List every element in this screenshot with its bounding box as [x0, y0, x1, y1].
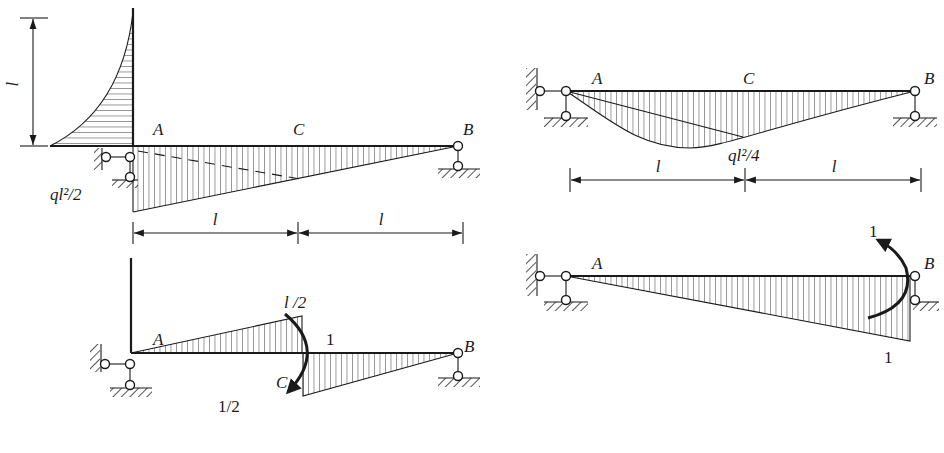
span2-label: l [832, 157, 837, 176]
moment-value-label: ql²/2 [50, 185, 82, 204]
label-C: C [293, 120, 305, 139]
label-A: A [591, 254, 603, 273]
moment-top-label: 1 [869, 222, 878, 241]
span1-label: l [213, 210, 218, 229]
panel-top-left: l A C [3, 8, 480, 244]
label-B: B [924, 254, 935, 273]
support-left-hinged [94, 148, 138, 188]
panel-top-right: A C B ql²/4 l l [526, 68, 937, 192]
span2-label: l [379, 210, 384, 229]
panel-bottom-right: A B 1 1 [526, 222, 939, 367]
support-left-hinged [526, 254, 588, 311]
label-B: B [464, 337, 475, 356]
label-B: B [924, 69, 935, 88]
moment-diagram [566, 91, 915, 148]
span-dimension: l l [133, 210, 463, 244]
label-C: C [743, 69, 755, 88]
moment-value-label: ql²/4 [728, 146, 760, 165]
label-A: A [591, 69, 603, 88]
beam-moment-diagram [133, 146, 458, 212]
moment-bottom-label: 1 [884, 348, 893, 367]
height-dimension: l [3, 18, 48, 146]
column-moment-diagram [50, 8, 133, 146]
span1-label: l [656, 157, 661, 176]
top-value-label: l /2 [284, 293, 307, 312]
height-label: l [3, 81, 22, 86]
bottom-value-label: 1/2 [218, 397, 240, 416]
panel-bottom-left: A C B l /2 1 1/2 [90, 258, 480, 416]
structural-moment-diagrams: l A C [0, 0, 944, 453]
label-C: C [276, 373, 288, 392]
label-B: B [463, 120, 474, 139]
negative-moment-triangle [303, 353, 458, 396]
moment-label: 1 [326, 330, 335, 349]
support-right-roller [911, 272, 940, 312]
moment-diagram [566, 276, 910, 341]
label-A: A [152, 120, 164, 139]
label-A: A [152, 330, 164, 349]
